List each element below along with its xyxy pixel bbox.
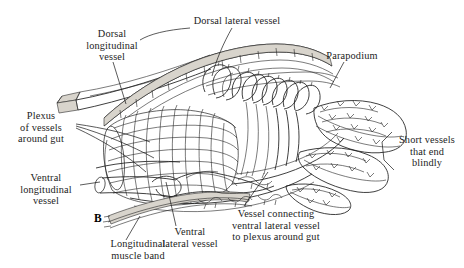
- connecting-vessels: [241, 102, 299, 176]
- label-parapodium: Parapodium: [312, 50, 392, 62]
- figure-canvas: Dorsal longitudinal vessel Dorsal latera…: [0, 0, 464, 268]
- label-plexus-of-vessels-around-gut: Plexus of vessels around gut: [4, 110, 78, 145]
- label-short-vessels-that-end-blindly: Short vessels that end blindly: [392, 134, 462, 169]
- label-dorsal-lateral-vessel: Dorsal lateral vessel: [178, 15, 296, 27]
- label-ventral-longitudinal-vessel: Ventral longitudinal vessel: [10, 172, 82, 207]
- label-vessel-connecting: Vessel connecting ventral lateral vessel…: [206, 208, 346, 243]
- leader-dorsal-longitudinal-vessel: [113, 62, 126, 104]
- panel-label-b: B: [94, 212, 102, 224]
- parapodium-shape: [286, 101, 406, 215]
- label-dorsal-longitudinal-vessel: Dorsal longitudinal vessel: [64, 28, 160, 63]
